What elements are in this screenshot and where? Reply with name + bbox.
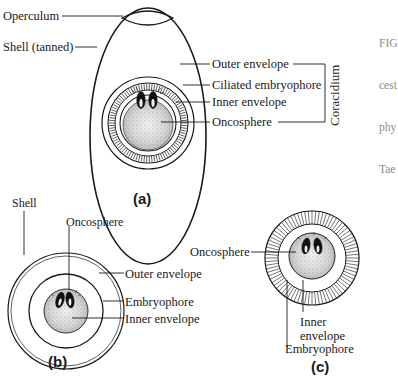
label-coracidium: Coracidium (328, 65, 341, 126)
label-embryophore-c: Embryophore (285, 343, 354, 356)
figure-caption-fragment: FIG cest phy Tae (379, 8, 398, 190)
panel-label-c: (c) (311, 359, 329, 374)
label-outer-envelope-a: Outer envelope (212, 58, 289, 71)
label-inner-envelope-c-line1: Inner (300, 316, 326, 329)
label-inner-envelope-a: Inner envelope (212, 96, 287, 109)
label-embryophore-b: Embryophore (125, 296, 194, 309)
label-inner-envelope-c-line2: envelope (300, 330, 345, 343)
label-inner-envelope-b: Inner envelope (125, 313, 200, 326)
label-outer-envelope-b: Outer envelope (125, 268, 202, 281)
label-oncosphere-b: Oncosphere (66, 216, 123, 228)
label-oncosphere-a: Oncosphere (212, 116, 272, 129)
panel-b-egg (8, 211, 124, 369)
panel-label-b: (b) (48, 354, 67, 369)
label-operculum: Operculum (3, 10, 59, 23)
label-ciliated-embryophore: Ciliated embryophore (212, 79, 321, 92)
label-oncosphere-c: Oncosphere (190, 246, 250, 259)
panel-label-a: (a) (133, 191, 151, 206)
label-shell-tanned: Shell (tanned) (3, 41, 73, 54)
label-shell-b: Shell (12, 197, 37, 209)
